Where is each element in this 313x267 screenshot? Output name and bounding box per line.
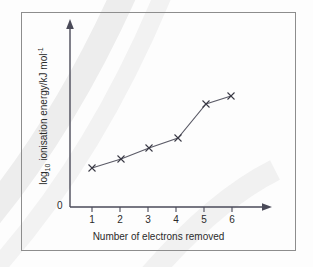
data-point-1 [89, 165, 96, 172]
y-axis [66, 19, 74, 207]
data-point-2 [118, 156, 125, 163]
x-axis-ticks [92, 207, 232, 212]
data-point-5 [203, 101, 210, 108]
figure-container: 0 1 2 3 4 5 6 Number of electrons remove… [0, 0, 313, 267]
data-point-6 [228, 93, 235, 100]
y-axis-label-wrapper: log10 ionisation energy/kJ mol-1 [33, 31, 49, 201]
x-axis-label: Number of electrons removed [21, 231, 296, 242]
x-tick-label-6: 6 [224, 214, 240, 225]
data-markers [89, 93, 235, 172]
x-tick-label-3: 3 [140, 214, 156, 225]
x-tick-label-4: 4 [168, 214, 184, 225]
y-axis-label-superscript: -1 [37, 47, 44, 53]
x-tick-label-2: 2 [112, 214, 128, 225]
x-tick-label-5: 5 [196, 214, 212, 225]
x-axis [70, 203, 272, 211]
data-point-4 [175, 135, 182, 142]
y-axis-label-prefix: log [38, 171, 49, 184]
data-point-3 [146, 145, 153, 152]
x-tick-label-1: 1 [84, 214, 100, 225]
y-axis-label-subscript: 10 [44, 164, 51, 172]
y-axis-label-middle: ionisation energy/kJ mol [38, 54, 49, 164]
y-axis-label: log10 ionisation energy/kJ mol-1 [38, 47, 49, 184]
data-line [92, 96, 231, 168]
origin-label: 0 [57, 200, 63, 211]
